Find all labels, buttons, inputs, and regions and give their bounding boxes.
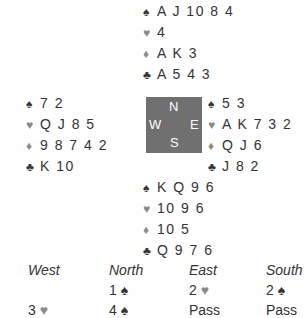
south-hearts: 10 9 6 — [157, 200, 205, 216]
compass-north: N — [169, 99, 178, 114]
bid: 2 ♥ — [189, 282, 209, 298]
north-spades: A J 10 8 4 — [157, 3, 234, 19]
east-clubs: J 8 2 — [222, 158, 260, 174]
compass-west: W — [149, 117, 161, 132]
west-diamonds: 9 8 7 4 2 — [40, 137, 108, 153]
diamond-icon: ♦ — [26, 136, 40, 156]
bid: 2 ♠ — [266, 282, 285, 298]
north-clubs: A 5 4 3 — [157, 66, 211, 82]
spade-icon: ♠ — [208, 94, 222, 114]
bid: 4 ♠ — [109, 302, 128, 318]
south-hand: ♠K Q 9 6 ♥10 9 6 ♦10 5 ♣Q 9 7 6 — [143, 177, 215, 261]
east-hand: ♠5 3 ♥A K 7 3 2 ♦Q J 6 ♣J 8 2 — [208, 93, 292, 177]
spade-icon: ♠ — [26, 94, 40, 114]
heart-icon: ♥ — [40, 302, 48, 318]
west-spades: 7 2 — [40, 95, 64, 111]
diamond-icon: ♦ — [143, 44, 157, 64]
club-icon: ♣ — [143, 241, 157, 261]
heart-icon: ♥ — [26, 115, 40, 135]
south-spades: K Q 9 6 — [157, 179, 215, 195]
compass-east: E — [190, 117, 199, 132]
spade-icon: ♠ — [121, 302, 128, 318]
header-east: East — [189, 262, 217, 278]
bid: 3 ♥ — [28, 302, 48, 318]
east-spades: 5 3 — [222, 95, 246, 111]
heart-icon: ♥ — [143, 199, 157, 219]
spade-icon: ♠ — [143, 178, 157, 198]
compass-box: N W E S — [146, 97, 202, 153]
north-diamonds: A K 3 — [157, 45, 198, 61]
club-icon: ♣ — [208, 157, 222, 177]
heart-icon: ♥ — [201, 282, 209, 298]
west-hand: ♠7 2 ♥Q J 8 5 ♦9 8 7 4 2 ♣K 10 — [26, 93, 108, 177]
bid: Pass — [189, 302, 220, 318]
bid: Pass — [266, 302, 297, 318]
north-hand: ♠A J 10 8 4 ♥4 ♦A K 3 ♣A 5 4 3 — [143, 1, 234, 85]
spade-icon: ♠ — [143, 2, 157, 22]
diamond-icon: ♦ — [143, 220, 157, 240]
club-icon: ♣ — [26, 157, 40, 177]
south-diamonds: 10 5 — [157, 221, 190, 237]
south-clubs: Q 9 7 6 — [157, 242, 213, 258]
auction-row: 3 ♥ 4 ♠ Pass Pass — [0, 302, 308, 318]
spade-icon: ♠ — [278, 282, 285, 298]
west-clubs: K 10 — [40, 158, 75, 174]
auction-header: West North East South — [0, 262, 308, 282]
compass-south: S — [170, 135, 179, 150]
bid: 1 ♠ — [109, 282, 128, 298]
west-hearts: Q J 8 5 — [40, 116, 96, 132]
heart-icon: ♥ — [208, 115, 222, 135]
club-icon: ♣ — [143, 65, 157, 85]
header-south: South — [266, 262, 303, 278]
east-hearts: A K 7 3 2 — [222, 116, 292, 132]
auction-row: 1 ♠ 2 ♥ 2 ♠ — [0, 282, 308, 302]
east-diamonds: Q J 6 — [222, 137, 263, 153]
header-west: West — [28, 262, 60, 278]
north-hearts: 4 — [157, 24, 166, 40]
diamond-icon: ♦ — [208, 136, 222, 156]
heart-icon: ♥ — [143, 23, 157, 43]
auction-table: West North East South 1 ♠ 2 ♥ 2 ♠ 3 ♥ 4 … — [0, 262, 308, 318]
header-north: North — [109, 262, 143, 278]
spade-icon: ♠ — [121, 282, 128, 298]
